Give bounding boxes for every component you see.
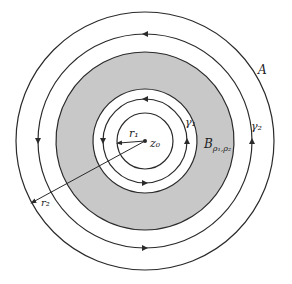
label-z0: z₀	[149, 137, 161, 150]
label-gamma2: γ₂	[251, 120, 262, 133]
label-B-main: B	[203, 137, 213, 151]
label-gamma1: γ₁	[185, 116, 196, 129]
label-r2: r₂	[41, 197, 50, 208]
label-B-subscript: ρ₁,ρ₂	[212, 144, 231, 153]
annulus-diagram: z₀ r₁ r₂ γ₁ γ₂ A Bρ₁,ρ₂	[0, 0, 292, 284]
label-A: A	[257, 63, 267, 77]
label-r1: r₁	[129, 127, 139, 140]
